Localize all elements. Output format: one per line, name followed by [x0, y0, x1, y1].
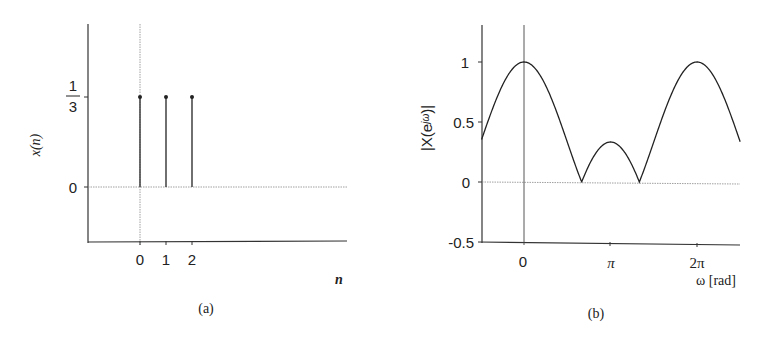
- plot-a-caption: (a): [198, 301, 214, 317]
- stem-marker: [138, 95, 142, 99]
- plot-a-xtick-label-0: 0: [136, 251, 144, 268]
- plot-b-ytick-label-0: 0: [462, 174, 470, 191]
- plot-a: 0 1 2 0 1 3 x(n) n (a): [28, 24, 347, 317]
- plot-a-x-axis: [88, 241, 347, 242]
- plot-b-x-axis: [478, 242, 740, 245]
- plot-b-ytick-label-0.5: 0.5: [453, 114, 474, 131]
- plot-b-ylabel: |X(ejω)|: [418, 105, 435, 151]
- stem-marker: [190, 95, 194, 99]
- plot-b-caption: (b): [588, 306, 605, 322]
- plot-b-xtick-label-2pi: 2π: [689, 255, 705, 271]
- plot-a-ytick-label-0: 0: [69, 179, 77, 196]
- plot-a-ytick-label-num: 1: [69, 77, 77, 94]
- plot-a-xlabel: n: [335, 272, 343, 287]
- plot-b-xtick-label-0: 0: [519, 253, 527, 270]
- plot-a-ylabel: x(n): [28, 133, 44, 157]
- plot-b-xlabel: ω [rad]: [696, 273, 736, 288]
- plot-b-magnitude-curve: [482, 62, 741, 182]
- plot-b-ytick-label-1: 1: [461, 54, 469, 71]
- plot-b-ytick-label-neg0.5: -0.5: [448, 234, 474, 251]
- plot-b-xtick-label-pi: π: [607, 255, 615, 271]
- plot-a-xtick-label-2: 2: [188, 251, 196, 268]
- figure-canvas: 0 1 2 0 1 3 x(n) n (a) 1 0.5 0 -0.5 0 π …: [0, 0, 761, 344]
- plot-a-stems: [138, 95, 194, 187]
- plot-a-xtick-label-1: 1: [162, 251, 170, 268]
- plot-b: 1 0.5 0 -0.5 0 π 2π ω [rad] |X(ejω)| (b): [418, 25, 740, 322]
- plot-a-ytick-label-den: 3: [69, 98, 77, 115]
- stem-marker: [164, 95, 168, 99]
- plot-b-zero-line: [482, 182, 740, 184]
